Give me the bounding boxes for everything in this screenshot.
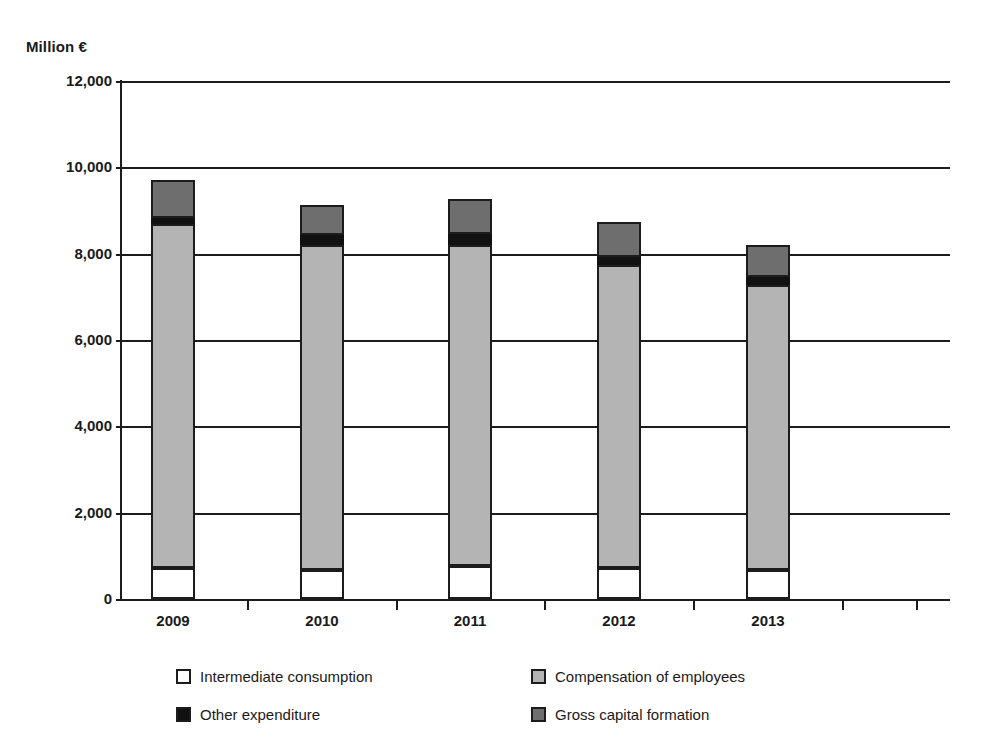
y-tick-label-0: 0 [16,590,112,607]
y-tick-label-2000: 2,000 [16,504,112,521]
x-tick-mark-2011 [544,599,546,610]
legend-item-other-expenditure: Other expenditure [176,706,531,723]
y-tick-mark-8000 [116,254,124,256]
bar-segment-2010-gross-capital-formation [300,205,344,235]
bar-segment-2012-compensation-of-employees [597,265,641,568]
legend-label-other-expenditure: Other expenditure [200,706,320,723]
bar-segment-2011-compensation-of-employees [448,245,492,566]
legend-label-intermediate-consumption: Intermediate consumption [200,668,373,685]
y-tick-mark-4000 [116,426,124,428]
x-tick-mark-2010 [396,599,398,610]
bar-2011 [448,81,492,599]
bar-segment-2012-intermediate-consumption [597,568,641,599]
y-tick-label-10000: 10,000 [16,158,112,175]
bar-segment-2011-other-expenditure [448,234,492,245]
legend-item-intermediate-consumption: Intermediate consumption [176,668,531,685]
y-tick-label-8000: 8,000 [16,245,112,262]
legend-label-compensation-of-employees: Compensation of employees [555,668,745,685]
bar-segment-2010-intermediate-consumption [300,570,344,599]
y-tick-mark-10000 [116,167,124,169]
legend-swatch-icon-compensation-of-employees [531,669,546,684]
gridline-10000 [122,167,950,169]
gridline-12000 [122,81,950,83]
bar-2010 [300,81,344,599]
legend-swatch-icon-intermediate-consumption [176,669,191,684]
x-axis-label-2010: 2010 [277,612,367,629]
bar-segment-2010-other-expenditure [300,235,344,245]
x-tick-mark-end [916,599,918,610]
legend-label-gross-capital-formation: Gross capital formation [555,706,709,723]
x-axis-label-2012: 2012 [574,612,664,629]
x-tick-mark-2013 [842,599,844,610]
bar-segment-2011-gross-capital-formation [448,199,492,234]
x-axis-label-2009: 2009 [128,612,218,629]
legend-swatch-icon-other-expenditure [176,707,191,722]
bar-2013 [746,81,790,599]
legend-item-gross-capital-formation: Gross capital formation [531,706,876,723]
chart-legend: Intermediate consumption Compensation of… [176,657,876,733]
x-axis-label-2011: 2011 [425,612,515,629]
y-tick-mark-12000 [116,81,124,83]
bar-segment-2011-intermediate-consumption [448,566,492,599]
y-tick-mark-6000 [116,340,124,342]
y-tick-label-4000: 4,000 [16,417,112,434]
legend-item-compensation-of-employees: Compensation of employees [531,668,876,685]
bar-segment-2013-intermediate-consumption [746,570,790,599]
bar-segment-2013-gross-capital-formation [746,245,790,277]
stacked-bar-chart: Million € 02,0004,0006,0008,00010,00012,… [0,0,984,752]
bar-segment-2009-other-expenditure [151,218,195,224]
bar-segment-2009-gross-capital-formation [151,180,195,218]
bar-2012 [597,81,641,599]
legend-swatch-icon-gross-capital-formation [531,707,546,722]
bar-segment-2012-other-expenditure [597,257,641,265]
x-tick-mark-2012 [693,599,695,610]
y-axis-title: Million € [26,38,87,55]
bar-segment-2009-compensation-of-employees [151,224,195,567]
bar-segment-2009-intermediate-consumption [151,568,195,599]
bar-2009 [151,81,195,599]
y-tick-mark-2000 [116,513,124,515]
gridline-4000 [122,426,950,428]
y-tick-mark-0 [116,599,124,601]
bar-segment-2010-compensation-of-employees [300,245,344,570]
x-tick-mark-2009 [247,599,249,610]
x-axis-label-2013: 2013 [723,612,813,629]
y-tick-label-6000: 6,000 [16,331,112,348]
bar-segment-2012-gross-capital-formation [597,222,641,257]
y-tick-label-12000: 12,000 [16,72,112,89]
gridline-6000 [122,340,950,342]
gridline-8000 [122,254,950,256]
bar-segment-2013-other-expenditure [746,277,790,285]
gridline-2000 [122,513,950,515]
bar-segment-2013-compensation-of-employees [746,285,790,569]
